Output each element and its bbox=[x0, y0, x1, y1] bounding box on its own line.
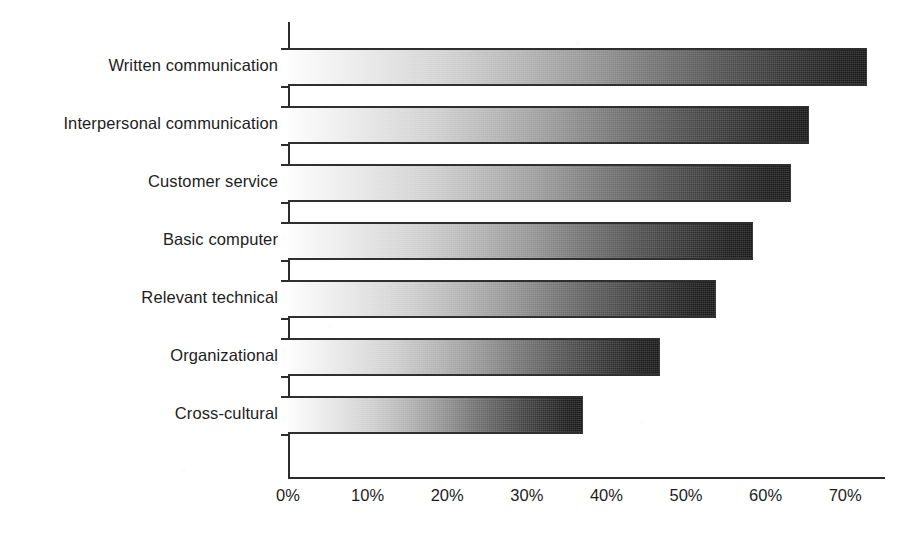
category-label-3: Customer service bbox=[0, 172, 278, 191]
x-axis-line bbox=[288, 477, 885, 479]
category-label-6: Organizational bbox=[0, 346, 278, 365]
category-label-5: Relevant technical bbox=[0, 288, 278, 307]
category-label-4: Basic computer bbox=[0, 230, 278, 249]
bar-fill bbox=[288, 338, 660, 376]
x-tick-label-0: 0% bbox=[276, 486, 300, 505]
horizontal-bar-chart: Written communicationInterpersonal commu… bbox=[0, 0, 917, 535]
bar-fill bbox=[288, 48, 867, 86]
y-axis-tick bbox=[281, 106, 288, 108]
y-axis-tick bbox=[281, 144, 288, 146]
bar-5 bbox=[288, 280, 716, 318]
y-axis-tick bbox=[281, 48, 288, 50]
x-tick-label-5: 50% bbox=[669, 486, 702, 505]
x-tick-label-3: 30% bbox=[510, 486, 543, 505]
bar-fill bbox=[288, 280, 716, 318]
bar-fill bbox=[288, 164, 791, 202]
bar-7 bbox=[288, 396, 583, 434]
category-label-7: Cross-cultural bbox=[0, 404, 278, 423]
bar-fill bbox=[288, 396, 583, 434]
y-axis-tick bbox=[281, 434, 288, 436]
x-tick-label-7: 70% bbox=[829, 486, 862, 505]
category-label-2: Interpersonal communication bbox=[0, 114, 278, 133]
y-axis-tick bbox=[281, 260, 288, 262]
y-axis-tick bbox=[281, 396, 288, 398]
x-tick-label-6: 60% bbox=[749, 486, 782, 505]
x-tick-label-1: 10% bbox=[351, 486, 384, 505]
y-axis-tick bbox=[281, 222, 288, 224]
y-axis-tick bbox=[281, 338, 288, 340]
bar-6 bbox=[288, 338, 660, 376]
y-axis-tick bbox=[281, 202, 288, 204]
bar-3 bbox=[288, 164, 791, 202]
bar-fill bbox=[288, 106, 809, 144]
y-axis-tick bbox=[281, 280, 288, 282]
x-tick-label-2: 20% bbox=[431, 486, 464, 505]
x-tick-label-4: 40% bbox=[590, 486, 623, 505]
y-axis-tick bbox=[281, 376, 288, 378]
bar-1 bbox=[288, 48, 867, 86]
y-axis-tick bbox=[281, 318, 288, 320]
bar-4 bbox=[288, 222, 753, 260]
y-axis-tick bbox=[281, 86, 288, 88]
bar-2 bbox=[288, 106, 809, 144]
bar-fill bbox=[288, 222, 753, 260]
y-axis-tick bbox=[281, 164, 288, 166]
category-label-1: Written communication bbox=[0, 56, 278, 75]
